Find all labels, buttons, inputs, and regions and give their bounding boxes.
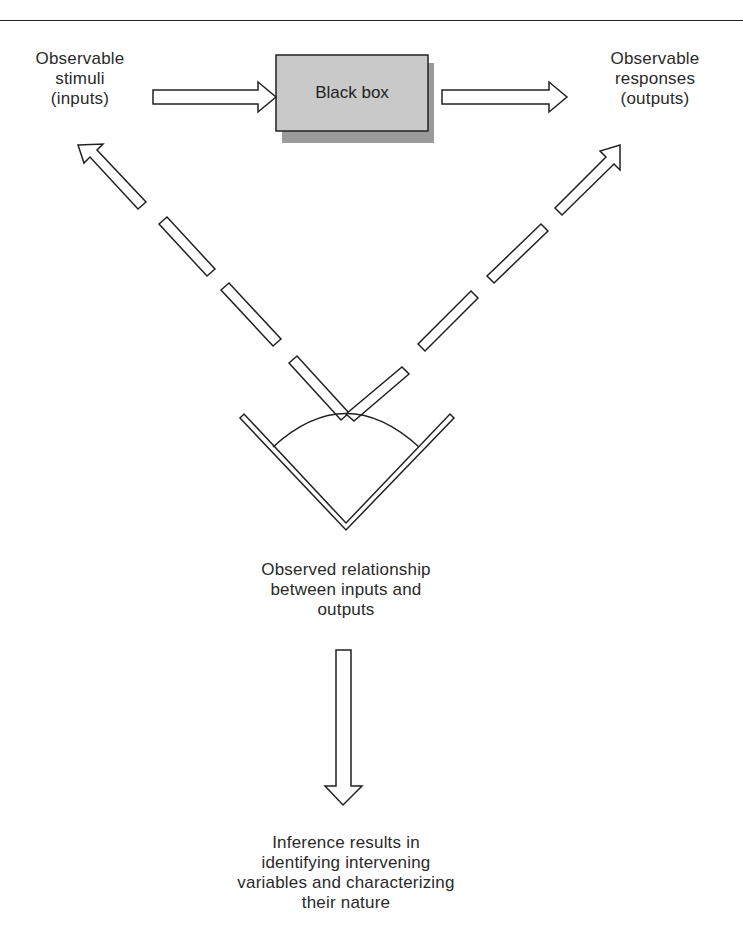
inference-label-line: their nature: [196, 893, 496, 913]
inputs-label-line: stimuli: [20, 69, 140, 89]
inference-label-line: identifying intervening: [196, 853, 496, 873]
observed-relationship-label: Observed relationship between inputs and…: [221, 560, 471, 620]
inference-label-line: Inference results in: [196, 833, 496, 853]
observed-label-line: between inputs and: [221, 580, 471, 600]
outputs-label-line: Observable: [585, 49, 725, 69]
inference-arrow-icon: [325, 650, 362, 805]
dashed-arrow-to-outputs-icon: [346, 145, 620, 421]
dashed-arrow-to-inputs-icon: [78, 144, 349, 420]
outputs-label-line: responses: [585, 69, 725, 89]
input-arrow-icon: [153, 82, 276, 112]
inputs-label-line: (inputs): [20, 89, 140, 109]
observed-label-line: Observed relationship: [221, 560, 471, 580]
inference-label-line: variables and characterizing: [196, 873, 496, 893]
inputs-label: Observable stimuli (inputs): [20, 49, 140, 109]
outputs-label-line: (outputs): [585, 89, 725, 109]
observed-label-line: outputs: [221, 600, 471, 620]
diagram-canvas: [0, 0, 743, 940]
outputs-label: Observable responses (outputs): [585, 49, 725, 109]
output-arrow-icon: [442, 82, 567, 112]
observed-relationship-icon: [240, 414, 454, 531]
black-box-label: Black box: [276, 55, 428, 131]
inputs-label-line: Observable: [20, 49, 140, 69]
inference-label: Inference results in identifying interve…: [196, 833, 496, 913]
